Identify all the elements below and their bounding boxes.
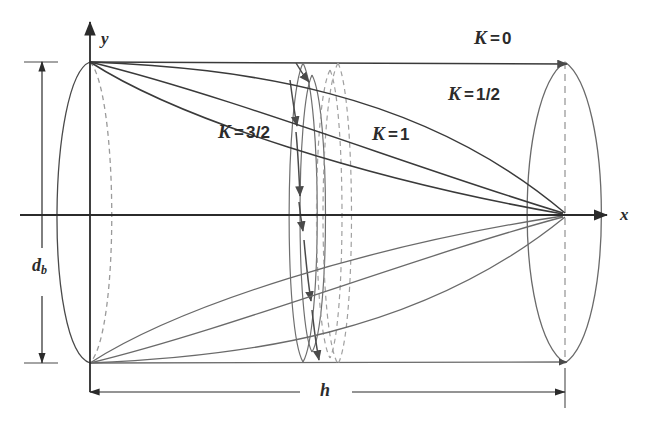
curve-label-k-threehalves: K=3/2 xyxy=(218,122,270,141)
y-axis-label: y xyxy=(101,30,109,47)
diameter-dimension-label: db xyxy=(32,256,47,276)
curve-label-k-1: K=1 xyxy=(372,124,410,143)
script-k-glyph: K xyxy=(474,27,489,48)
cylinder-trajectory-diagram xyxy=(0,0,651,425)
script-k-glyph: K xyxy=(372,123,387,144)
script-k-glyph: K xyxy=(218,121,233,142)
equals-sign: = xyxy=(489,29,502,48)
curve-label-k-half: K=1/2 xyxy=(448,84,500,103)
equals-sign: = xyxy=(387,125,400,144)
diameter-symbol: d xyxy=(32,255,41,275)
curve-k0-top xyxy=(90,62,567,64)
curve-k-one-mirror xyxy=(90,217,563,363)
equals-sign: = xyxy=(233,123,246,142)
curve-value: 3/2 xyxy=(246,123,270,142)
height-dimension-label: h xyxy=(320,381,330,399)
curve-value: 1/2 xyxy=(476,85,500,104)
figure-container: y x db h K=0 K=1/2 K=1 K=3/2 xyxy=(0,0,651,425)
x-axis-label: x xyxy=(620,206,629,223)
equals-sign: = xyxy=(463,85,476,104)
dimension-db xyxy=(24,62,58,363)
curve-value: 0 xyxy=(502,29,512,48)
middle-ellipse-cluster xyxy=(289,63,351,364)
left-rim-ellipse xyxy=(57,62,112,363)
diameter-subscript: b xyxy=(41,263,47,277)
curve-k-half-mirror xyxy=(90,217,565,363)
trajectory-curves-lower xyxy=(90,216,565,363)
curve-k0-bottom xyxy=(90,362,567,363)
script-k-glyph: K xyxy=(448,83,463,104)
curve-value: 1 xyxy=(400,125,410,144)
curve-label-k-0: K=0 xyxy=(474,28,512,47)
